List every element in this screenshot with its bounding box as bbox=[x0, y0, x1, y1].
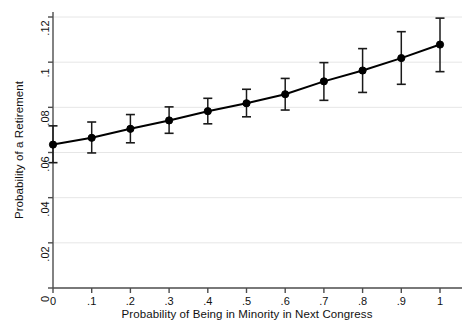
axis-ticks bbox=[48, 17, 440, 293]
error-bars bbox=[49, 18, 445, 163]
chart-figure: Probability of a Retirement Probability … bbox=[0, 0, 465, 329]
plot-area bbox=[0, 0, 465, 329]
